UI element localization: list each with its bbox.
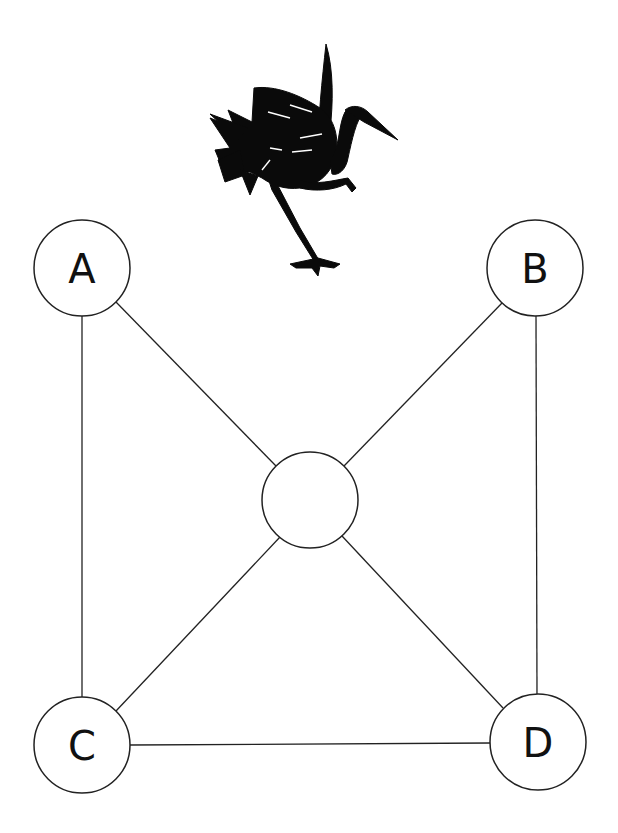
- node-c: C: [34, 697, 130, 793]
- node-a-label: A: [68, 246, 96, 292]
- edge-c-d: [130, 743, 490, 745]
- node-a: A: [34, 220, 130, 316]
- node-center: [262, 452, 358, 548]
- crane-bird-icon: [210, 44, 398, 276]
- node-c-label: C: [68, 723, 96, 769]
- edge-b-center: [344, 303, 502, 466]
- edge-d-center: [342, 536, 503, 708]
- graph-diagram: A B C D: [0, 0, 618, 833]
- node-d: D: [490, 694, 586, 790]
- node-b: B: [487, 220, 583, 316]
- edge-a-center: [116, 302, 276, 466]
- node-d-label: D: [523, 720, 554, 766]
- edge-c-center: [116, 537, 280, 711]
- edge-b-d: [536, 316, 537, 694]
- node-b-label: B: [521, 246, 548, 292]
